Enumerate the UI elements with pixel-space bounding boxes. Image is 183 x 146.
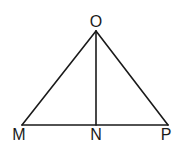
segment-om	[22, 31, 96, 125]
triangle-diagram: O M N P	[0, 0, 183, 146]
label-o: O	[90, 13, 102, 30]
segment-op	[96, 31, 168, 125]
label-m: M	[12, 126, 25, 143]
label-p: P	[161, 126, 172, 143]
label-n: N	[90, 126, 102, 143]
